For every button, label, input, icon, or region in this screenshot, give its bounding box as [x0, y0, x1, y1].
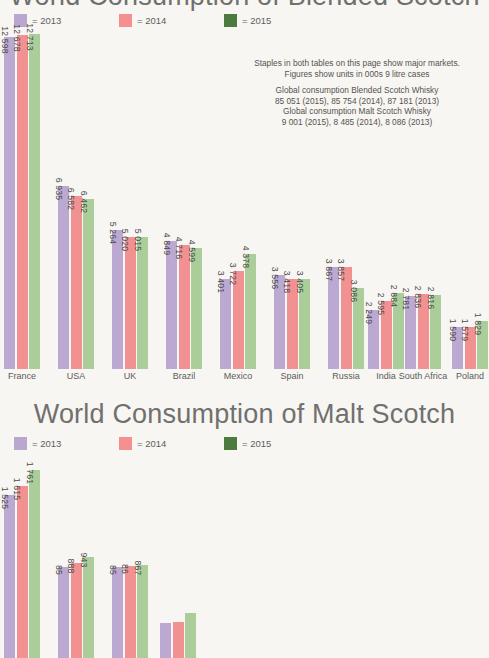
bar-2013: 12 598: [4, 37, 15, 369]
bar-group: 12 59812 67812 713: [4, 34, 40, 369]
bar-value-label: 2 249: [363, 302, 374, 325]
bar-2014: 2 595: [381, 301, 392, 369]
x-tick-label: Russia: [332, 371, 360, 381]
bar-2013: 1 525: [4, 495, 15, 658]
bar-2014: 3 722: [233, 271, 244, 369]
bar-value-label: 4 378: [240, 246, 251, 269]
chart2-legend: = 2013 = 2014 = 2015: [14, 437, 434, 451]
bar-group: 6 9356 5826 462: [58, 34, 94, 369]
bar-2013: 85: [58, 567, 69, 658]
chart1-x-axis: FranceUSAUKBrazilMexicoSpainRussiaIndiaS…: [0, 371, 489, 387]
bar-value-label: 5 015: [132, 229, 143, 252]
bar-group: 1 5901 5791 829: [452, 34, 488, 369]
bar-value-label: 1 525: [0, 487, 10, 510]
bar-value-label: 6 935: [53, 178, 64, 201]
bar-value-label: 2 836: [412, 286, 423, 309]
bar-value-label: 85: [53, 565, 64, 575]
bar-group: 3 5563 4183 405: [274, 34, 310, 369]
bar-2015: 2 816: [430, 295, 441, 369]
bar-group: 2 7812 8362 816: [405, 34, 441, 369]
bar-2013: 2 249: [368, 310, 379, 369]
bar-2013: 3 401: [220, 279, 231, 369]
bar-2014: 888: [71, 563, 82, 658]
bar-2015: 3 086: [353, 288, 364, 369]
bar-2015: 12 713: [29, 34, 40, 369]
bar-2013: 3 867: [328, 267, 339, 369]
bar-value-label: 3 086: [348, 280, 359, 303]
bar-2013: 4 849: [166, 241, 177, 369]
bar-group: 2 2492 5952 884: [368, 34, 404, 369]
bar-value-label: 1 829: [472, 313, 483, 336]
bar-group: 1 5251 6151 761: [4, 470, 40, 658]
x-tick-label: India: [376, 371, 396, 381]
bar-value-label: 2 816: [425, 287, 436, 310]
x-tick-label: Spain: [280, 371, 303, 381]
bar-group: 3 4013 7224 378: [220, 34, 256, 369]
x-tick-label: Mexico: [224, 371, 253, 381]
bar-2014: [173, 622, 184, 658]
legend-label-2013: = 2013: [32, 437, 61, 450]
legend-item-2013: = 2013: [14, 437, 61, 450]
bar-2015: [185, 613, 196, 658]
bar-2015: 867: [137, 565, 148, 658]
bar-2015: 4 378: [245, 254, 256, 369]
legend-label-2013: = 2013: [32, 14, 61, 27]
chart2-title: World Consumption of Malt Scotch: [0, 399, 489, 430]
bar-2014: 1 615: [17, 486, 28, 658]
legend-swatch-2014: [119, 14, 132, 27]
bar-group: 85888943: [58, 470, 94, 658]
bar-value-label: 867: [132, 561, 143, 576]
legend-label-2014: = 2014: [137, 14, 166, 27]
bar-2015: 3 405: [299, 279, 310, 369]
bar-group: 4 8494 7164 599: [166, 34, 202, 369]
bar-2014: 6 582: [71, 196, 82, 369]
bar-2013: [160, 623, 171, 658]
bar-group: 5 2645 0205 015: [112, 34, 148, 369]
legend-item-2014: = 2014: [119, 14, 166, 27]
legend-swatch-2015: [224, 437, 237, 450]
x-tick-label: Poland: [456, 371, 484, 381]
chart2-plot-area: 1 5251 6151 761858889438586867: [0, 470, 489, 658]
bar-2013: 85: [112, 567, 123, 658]
bar-group: [160, 470, 196, 658]
bar-value-label: 3 418: [281, 271, 292, 294]
bar-2015: 1 829: [477, 321, 488, 369]
bar-value-label: 1 761: [24, 462, 35, 485]
bar-value-label: 3 722: [227, 263, 238, 286]
x-tick-label: USA: [67, 371, 86, 381]
bar-2015: 4 599: [191, 248, 202, 369]
chart1-legend: = 2013 = 2014 = 2015: [14, 14, 434, 28]
bar-2015: 943: [83, 557, 94, 658]
bar-2014: 86: [125, 566, 136, 658]
bar-value-label: 5 264: [107, 222, 118, 245]
bar-group: 3 8673 8573 086: [328, 34, 364, 369]
bar-value-label: 943: [78, 553, 89, 568]
bar-value-label: 3 867: [323, 259, 334, 282]
bar-2015: 5 015: [137, 237, 148, 369]
bar-value-label: 12 713: [24, 23, 35, 51]
bar-2014: 5 020: [125, 237, 136, 369]
bar-value-label: 86: [119, 564, 130, 574]
bar-value-label: 4 716: [173, 237, 184, 260]
bar-2014: 4 716: [179, 245, 190, 369]
bar-2015: 6 462: [83, 199, 94, 369]
bar-value-label: 6 582: [65, 188, 76, 211]
bar-value-label: 85: [107, 565, 118, 575]
bar-value-label: 2 595: [375, 293, 386, 316]
x-tick-label: South Africa: [399, 371, 448, 381]
bar-value-label: 1 590: [447, 319, 458, 342]
legend-item-2015: = 2015: [224, 14, 271, 27]
bar-2015: 1 761: [29, 470, 40, 658]
bar-value-label: 3 405: [294, 271, 305, 294]
bar-2014: 12 678: [17, 35, 28, 369]
bar-value-label: 888: [65, 559, 76, 574]
bar-value-label: 4 849: [161, 233, 172, 256]
legend-swatch-2015: [224, 14, 237, 27]
bar-value-label: 2 884: [388, 285, 399, 308]
bar-value-label: 3 401: [215, 271, 226, 294]
x-tick-label: UK: [124, 371, 137, 381]
bar-value-label: 2 781: [400, 288, 411, 311]
chart1-title: World Consumption of Blended Scotch: [0, 0, 489, 12]
legend-label-2015: = 2015: [242, 437, 271, 450]
bar-value-label: 3 556: [269, 267, 280, 290]
